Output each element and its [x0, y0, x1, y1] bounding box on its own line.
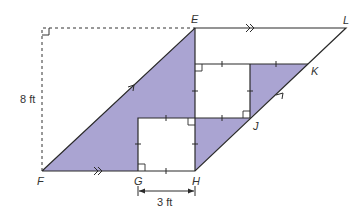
label-G: G [134, 175, 143, 187]
label-E: E [191, 13, 199, 25]
height-label: 8 ft [20, 93, 35, 105]
label-L: L [343, 14, 349, 26]
label-F: F [37, 175, 45, 187]
right-angle-marker-E-inner [195, 64, 202, 71]
dimension-arrow-right [188, 189, 194, 194]
dimension-arrow-left [139, 189, 145, 194]
parallelogram-diagram: E L F G H J K 8 ft 3 ft [0, 0, 364, 213]
square-side-label: 3 ft [157, 196, 172, 208]
right-angle-marker-corner [42, 28, 49, 35]
right-angle-marker-J [243, 111, 250, 118]
label-J: J [252, 120, 259, 132]
label-K: K [311, 65, 319, 77]
label-H: H [192, 175, 200, 187]
right-angle-marker-H-top [188, 118, 195, 125]
right-angle-marker-G [138, 164, 145, 171]
